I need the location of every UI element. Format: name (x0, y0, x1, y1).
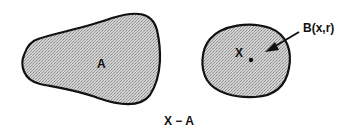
region-x-shape (202, 25, 289, 97)
region-x-label: X (235, 46, 243, 60)
point-x-dot (249, 58, 253, 62)
figure-caption: X − A (164, 114, 194, 128)
region-a-label: A (97, 57, 106, 71)
diagram-canvas: A X B(x,r) X − A (0, 0, 353, 128)
region-a-shape (22, 14, 160, 104)
ball-label: B(x,r) (303, 21, 334, 35)
